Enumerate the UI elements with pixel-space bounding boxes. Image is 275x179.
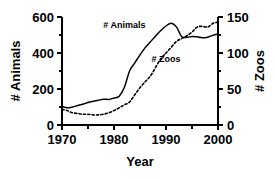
x-axis-title: Year: [126, 154, 153, 169]
left-tick-label-200: 200: [32, 82, 54, 97]
x-tick-label-2000: 2000: [204, 132, 233, 147]
left-axis-ticks: [57, 17, 62, 125]
right-axis-ticks: [218, 17, 223, 125]
series-annotation-zoos: # Zoos: [151, 54, 180, 64]
series-line-animals: [62, 23, 218, 107]
left-axis-title: # Animals: [8, 41, 23, 102]
line-chart: 0 200 400 600 # Animals 0 50 100 150 # Z…: [0, 0, 275, 179]
left-tick-label-600: 600: [32, 10, 54, 25]
left-tick-label-400: 400: [32, 46, 54, 61]
x-tick-label-1980: 1980: [100, 132, 129, 147]
x-tick-label-1970: 1970: [48, 132, 77, 147]
x-axis-ticks: [62, 125, 218, 130]
left-axis: 0 200 400 600 # Animals: [8, 10, 62, 133]
right-tick-label-150: 150: [227, 10, 249, 25]
left-tick-label-0: 0: [47, 118, 54, 133]
right-tick-label-0: 0: [227, 118, 234, 133]
right-axis: 0 50 100 150 # Zoos: [218, 10, 267, 133]
right-axis-title: # Zoos: [252, 50, 267, 92]
right-tick-label-50: 50: [227, 82, 241, 97]
chart-figure: 0 200 400 600 # Animals 0 50 100 150 # Z…: [0, 0, 275, 179]
series-annotation-animals: # Animals: [103, 20, 145, 30]
x-axis: 1970 1980 1990 2000 Year: [48, 125, 233, 169]
right-tick-label-100: 100: [227, 46, 249, 61]
x-tick-label-1990: 1990: [152, 132, 181, 147]
